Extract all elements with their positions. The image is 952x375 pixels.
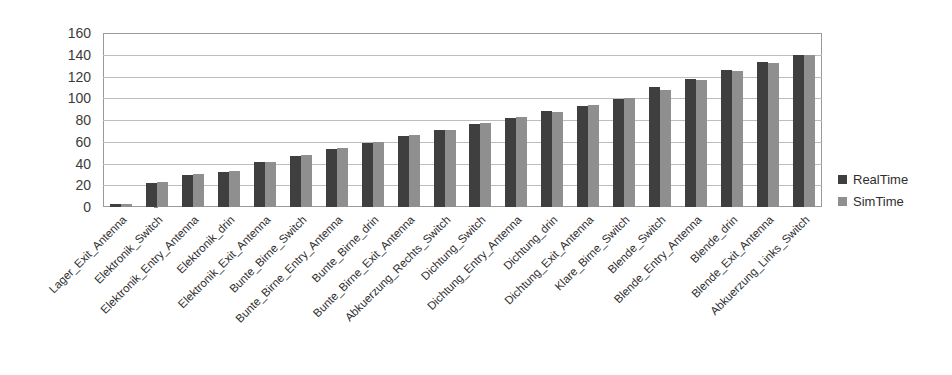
y-axis-tick-label: 20	[75, 178, 91, 192]
bar-realtime	[182, 175, 193, 207]
y-axis-tick-label: 160	[68, 26, 91, 40]
x-axis-label: Bunte_Birne_drin	[160, 214, 380, 375]
bar-simtime	[229, 171, 240, 207]
bar-realtime	[757, 62, 768, 207]
bar-group	[721, 33, 743, 207]
legend-item[interactable]: RealTime	[838, 168, 948, 190]
bar-group	[757, 33, 779, 207]
legend-label: SimTime	[853, 195, 904, 208]
bar-realtime	[469, 124, 480, 207]
bar-group	[505, 33, 527, 207]
bar-realtime	[793, 55, 804, 207]
bar-realtime	[434, 130, 445, 207]
bar-realtime	[541, 111, 552, 207]
bar-realtime	[721, 70, 732, 207]
bar-realtime	[505, 118, 516, 207]
x-axis-label: Elektronik_Exit_Antenna	[53, 214, 273, 375]
x-axis-label: Blende_Entry_Antenna	[484, 214, 704, 375]
bar-simtime	[445, 130, 456, 207]
bar-chart: 020406080100120140160 Lager_Exit_Antenna…	[0, 0, 952, 375]
bar-realtime	[613, 99, 624, 207]
bar-simtime	[409, 135, 420, 207]
x-axis-label: Elektronik_Switch	[0, 214, 165, 375]
y-axis-tick-mark	[154, 207, 158, 208]
bar-group	[469, 33, 491, 207]
x-axis-label: Bunte_Birne_Entry_Antenna	[125, 214, 345, 375]
bar-simtime	[265, 162, 276, 207]
x-axis-label: Abkuerzung_Rechts_Switch	[232, 214, 452, 375]
bar-group	[434, 33, 456, 207]
bar-group	[182, 33, 204, 207]
x-axis-label: Blende_drin	[520, 214, 740, 375]
bar-simtime	[337, 148, 348, 207]
x-axis-label: Blende_Exit_Antenna	[556, 214, 776, 375]
bar-group	[577, 33, 599, 207]
bar-group	[649, 33, 671, 207]
y-axis-tick-label: 100	[68, 91, 91, 105]
x-axis-label: Bunte_Birne_Switch	[89, 214, 309, 375]
legend-label: RealTime	[853, 173, 908, 186]
y-axis-tick-label: 80	[75, 113, 91, 127]
bar-group	[110, 33, 132, 207]
y-axis-tick-label: 120	[68, 70, 91, 84]
y-axis: 020406080100120140160	[55, 33, 97, 207]
x-axis-label: Klare_Birne_Switch	[412, 214, 632, 375]
bar-simtime	[373, 142, 384, 207]
legend-item[interactable]: SimTime	[838, 190, 948, 212]
x-axis-label: Lager_Exit_Antenna	[0, 214, 129, 375]
bar-simtime	[552, 112, 563, 207]
bar-realtime	[685, 79, 696, 207]
bar-group	[685, 33, 707, 207]
bar-simtime	[516, 117, 527, 207]
plot-area	[103, 33, 822, 207]
bar-group	[398, 33, 420, 207]
bar-simtime	[157, 182, 168, 207]
bar-realtime	[326, 149, 337, 207]
bar-realtime	[146, 183, 157, 207]
y-axis-tick-label: 0	[83, 200, 91, 214]
bar-simtime	[193, 174, 204, 207]
bar-realtime	[218, 172, 229, 207]
x-axis-label: Elektronik_Entry_Antenna	[0, 214, 201, 375]
bar-simtime	[804, 55, 815, 207]
bar-group	[613, 33, 635, 207]
x-axis-label: Bunte_Birne_Exit_Antenna	[196, 214, 416, 375]
y-axis-tick-label: 40	[75, 157, 91, 171]
bar-group	[793, 33, 815, 207]
bar-group	[290, 33, 312, 207]
bar-group	[146, 33, 168, 207]
bar-group	[326, 33, 348, 207]
x-axis-label: Dichtung_Exit_Antenna	[376, 214, 596, 375]
bar-group	[254, 33, 276, 207]
bar-simtime	[696, 80, 707, 207]
y-axis-tick-label: 60	[75, 135, 91, 149]
bar-realtime	[398, 136, 409, 207]
bar-simtime	[768, 63, 779, 207]
bar-realtime	[110, 204, 121, 207]
bar-realtime	[362, 143, 373, 207]
bar-realtime	[254, 162, 265, 207]
x-axis-label: Dichtung_drin	[340, 214, 560, 375]
y-axis-tick-label: 140	[68, 48, 91, 62]
bar-simtime	[624, 98, 635, 207]
bar-simtime	[480, 123, 491, 207]
x-axis-label: Dichtung_Entry_Antenna	[304, 214, 524, 375]
x-axis-label: Elektronik_drin	[17, 214, 237, 375]
legend-swatch-icon	[838, 197, 847, 206]
x-axis-label: Dichtung_Switch	[268, 214, 488, 375]
bar-realtime	[649, 87, 660, 207]
bar-group	[362, 33, 384, 207]
bar-simtime	[301, 155, 312, 207]
x-axis-label: Abkuerzung_Links_Switch	[592, 214, 812, 375]
bar-simtime	[732, 71, 743, 207]
chart-legend: RealTimeSimTime	[838, 168, 948, 212]
bar-realtime	[290, 156, 301, 207]
bar-realtime	[577, 106, 588, 207]
bar-groups	[103, 33, 822, 207]
bar-simtime	[121, 204, 132, 207]
bar-group	[218, 33, 240, 207]
bar-simtime	[588, 105, 599, 207]
bar-group	[541, 33, 563, 207]
x-axis-label: Blende_Switch	[448, 214, 668, 375]
legend-swatch-icon	[838, 175, 847, 184]
